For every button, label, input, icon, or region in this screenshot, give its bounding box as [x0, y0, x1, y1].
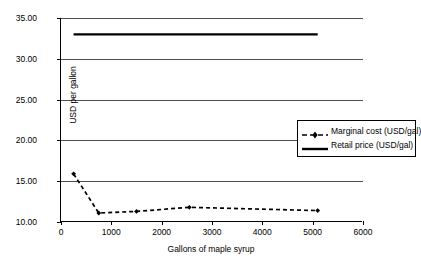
- y-tick-label: 35.00: [0, 14, 37, 23]
- x-tick-mark: [363, 221, 364, 225]
- data-point-marker: [187, 205, 192, 210]
- series-line-marginal-cost: [74, 174, 318, 213]
- solid-line-marker-icon: [302, 140, 328, 150]
- x-tick-label: 6000: [341, 228, 385, 237]
- x-tick-label: 2000: [140, 228, 184, 237]
- x-tick-label: 4000: [240, 228, 284, 237]
- legend-item-marginal-cost: Marginal cost (USD/gal): [302, 124, 411, 138]
- x-axis-title: Gallons of maple syrup: [60, 244, 362, 254]
- data-point-marker: [134, 209, 139, 214]
- plot-area: 35.00 30.00 25.00 20.00 15.00 10.00 0 10…: [60, 18, 362, 222]
- y-tick-label: 10.00: [0, 218, 37, 227]
- y-tick-label: 30.00: [0, 55, 37, 64]
- y-axis-title: USD per gallon: [68, 35, 78, 155]
- x-tick-label: 1000: [89, 228, 133, 237]
- series-markers-marginal-cost: [71, 171, 320, 215]
- x-tick-label: 5000: [291, 228, 335, 237]
- x-tick-label: 3000: [190, 228, 234, 237]
- dashed-diamond-marker-icon: [302, 126, 328, 136]
- legend-item-retail-price: Retail price (USD/gal): [302, 138, 411, 152]
- y-tick-label: 20.00: [0, 136, 37, 145]
- y-tick-label: 25.00: [0, 96, 37, 105]
- x-tick-label: 0: [39, 228, 83, 237]
- y-tick-label: 15.00: [0, 177, 37, 186]
- legend-label: Marginal cost (USD/gal): [331, 127, 421, 136]
- chart-legend: Marginal cost (USD/gal) Retail price (US…: [297, 120, 416, 157]
- legend-label: Retail price (USD/gal): [331, 141, 413, 150]
- data-point-marker: [315, 208, 320, 213]
